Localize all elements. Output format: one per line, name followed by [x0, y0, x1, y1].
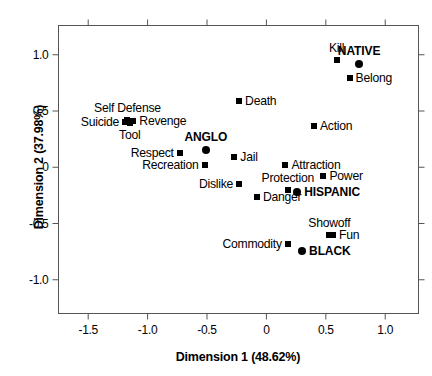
- attribute-point-label: Power: [329, 170, 362, 182]
- attribute-point-marker: [347, 75, 353, 81]
- attribute-point-label: Dislike: [199, 178, 233, 190]
- attribute-point-marker: [320, 173, 326, 179]
- tick-marks: [53, 20, 425, 320]
- group-point-marker: [355, 60, 363, 68]
- attribute-point-marker: [231, 154, 237, 160]
- attribute-point-label: Belong: [356, 72, 392, 84]
- attribute-point-marker: [311, 123, 317, 129]
- attribute-point-label: Action: [320, 120, 352, 132]
- attribute-point-marker: [254, 194, 260, 200]
- group-point-label: BLACK: [309, 245, 351, 257]
- x-tick-label: -0.5: [183, 323, 231, 337]
- attribute-point-label: Suicide: [81, 116, 119, 128]
- x-tick-label: 0: [242, 323, 290, 337]
- attribute-point-label: Fun: [339, 229, 359, 241]
- x-tick-label: -1.5: [64, 323, 112, 337]
- attribute-point-label: Self Defense: [94, 102, 161, 114]
- attribute-point-marker: [330, 232, 336, 238]
- x-tick-label: 1.0: [361, 323, 409, 337]
- attribute-point-marker: [236, 98, 242, 104]
- attribute-point-marker: [202, 162, 208, 168]
- attribute-point-label: Jail: [240, 151, 257, 163]
- attribute-point-marker: [127, 120, 133, 126]
- attribute-point-label: Tool: [119, 129, 140, 141]
- y-tick-label: -1.0: [9, 273, 49, 287]
- attribute-point-marker: [334, 57, 340, 63]
- attribute-point-marker: [236, 181, 242, 187]
- group-point-label: HISPANIC: [304, 186, 360, 198]
- x-tick-label: 0.5: [302, 323, 350, 337]
- attribute-point-label: Death: [245, 95, 276, 107]
- x-tick-label: -1.0: [124, 323, 172, 337]
- scatter-plot-figure: 1.00.50-0.5-1.0 -1.5-1.0-0.500.51.0 Kill…: [0, 0, 432, 376]
- attribute-point-label: Revenge: [139, 115, 186, 127]
- attribute-point-marker: [282, 162, 288, 168]
- attribute-point-label: Respect: [131, 147, 174, 159]
- plot-frame: [59, 26, 419, 314]
- y-axis-title: Dimension 2 (37.98%): [32, 72, 46, 262]
- attribute-point-marker: [177, 150, 183, 156]
- group-point-label: NATIVE: [338, 45, 381, 57]
- group-point-label: ANGLO: [184, 131, 227, 143]
- y-tick-label: 1.0: [9, 48, 49, 62]
- attribute-point-label: Recreation: [142, 159, 198, 171]
- x-axis-title: Dimension 1 (48.62%): [58, 350, 418, 364]
- attribute-point-label: Protection: [262, 172, 314, 184]
- group-point-marker: [298, 247, 306, 255]
- attribute-point-label: Commodity: [222, 238, 281, 250]
- attribute-point-marker: [285, 241, 291, 247]
